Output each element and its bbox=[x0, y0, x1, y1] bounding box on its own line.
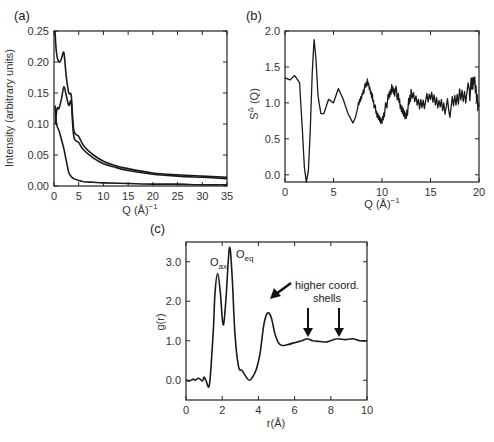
x-tick-label: 5 bbox=[76, 190, 82, 202]
x-tick-label: 6 bbox=[292, 404, 298, 416]
x-tick-label: 8 bbox=[328, 404, 334, 416]
annotation-o-eq: Oeq bbox=[236, 248, 253, 263]
panel-c-label: (c) bbox=[150, 221, 165, 236]
y-tick-label: 1.5 bbox=[265, 61, 280, 73]
y-tick-label: 0.00 bbox=[28, 180, 49, 192]
data-series-line bbox=[285, 40, 479, 182]
x-tick-label: 0 bbox=[282, 186, 288, 198]
x-tick-label: 10 bbox=[97, 190, 109, 202]
panel-a-label: (a) bbox=[14, 8, 30, 23]
y-tick-label: 0.05 bbox=[28, 149, 49, 161]
x-tick-label: 2 bbox=[219, 404, 225, 416]
annotation-shells-line2: shells bbox=[313, 292, 342, 304]
x-tick-label: 20 bbox=[473, 186, 485, 198]
x-tick-label: 4 bbox=[255, 404, 261, 416]
panel-b-label: (b) bbox=[246, 8, 262, 23]
annotation-o-ax: Oax bbox=[210, 256, 227, 271]
data-series-line bbox=[56, 87, 228, 179]
y-tick-label: 0.0 bbox=[265, 169, 280, 181]
y-tick-label: 0.15 bbox=[28, 87, 49, 99]
arrow-down-icon bbox=[334, 308, 344, 337]
y-tick-label: 1.0 bbox=[265, 97, 280, 109]
panel-b-ticks: 051015200.00.51.01.52.0 bbox=[265, 25, 485, 198]
panel-b-curves bbox=[285, 40, 479, 182]
x-tick-label: 0 bbox=[51, 190, 57, 202]
panel-a-plot-frame bbox=[54, 31, 227, 186]
panel-a-y-axis-label: Intensity (arbitrary units) bbox=[3, 49, 15, 167]
panel-b-y-axis-label: SΔ (Q) bbox=[246, 88, 260, 120]
figure: (a) 051015202530350.000.050.100.150.200.… bbox=[0, 0, 494, 442]
x-tick-label: 15 bbox=[122, 190, 134, 202]
panel-c: (c) 02468100.01.02.03.0 r(Å) g(r) Oax Oe… bbox=[150, 221, 373, 429]
panel-b: (b) 051015200.00.51.01.52.0 Q (Å)−1 SΔ (… bbox=[246, 8, 485, 210]
y-tick-label: 0.10 bbox=[28, 118, 49, 130]
y-tick-label: 2.0 bbox=[166, 295, 181, 307]
y-tick-label: 1.0 bbox=[166, 335, 181, 347]
panel-a-curves bbox=[55, 31, 227, 185]
x-tick-label: 15 bbox=[424, 186, 436, 198]
arrow-down-icon bbox=[303, 308, 313, 337]
y-tick-label: 3.0 bbox=[166, 256, 181, 268]
panel-b-plot-frame bbox=[285, 31, 479, 182]
annotation-shells-line1: higher coord. bbox=[295, 279, 359, 291]
x-tick-label: 0 bbox=[183, 404, 189, 416]
x-tick-label: 25 bbox=[171, 190, 183, 202]
x-tick-label: 30 bbox=[196, 190, 208, 202]
y-tick-label: 0.25 bbox=[28, 25, 49, 37]
x-tick-label: 20 bbox=[147, 190, 159, 202]
y-tick-label: 0.5 bbox=[265, 133, 280, 145]
y-tick-label: 0.0 bbox=[166, 374, 181, 386]
x-tick-label: 35 bbox=[221, 190, 233, 202]
y-tick-label: 0.20 bbox=[28, 56, 49, 68]
data-series-line bbox=[55, 31, 227, 177]
y-tick-label: 2.0 bbox=[265, 25, 280, 37]
x-tick-label: 10 bbox=[361, 404, 373, 416]
x-tick-label: 5 bbox=[330, 186, 336, 198]
x-tick-label: 10 bbox=[376, 186, 388, 198]
panel-c-x-axis-label: r(Å) bbox=[267, 417, 285, 429]
panel-c-y-axis-label: g(r) bbox=[154, 313, 166, 330]
panel-a-x-axis-label: Q (Å)−1 bbox=[122, 202, 158, 216]
panel-b-x-axis-label: Q (Å)−1 bbox=[364, 196, 400, 210]
panel-a: (a) 051015202530350.000.050.100.150.200.… bbox=[3, 8, 233, 216]
arrow-icon bbox=[270, 283, 291, 299]
